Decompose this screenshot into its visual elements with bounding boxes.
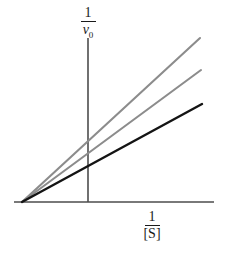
y-axis-label: 1 v0 xyxy=(72,6,104,40)
series-line-intermediate xyxy=(22,70,201,202)
x-axis-label-denominator: [S] xyxy=(140,226,163,241)
y-axis-label-subscript: 0 xyxy=(89,30,94,40)
plot-canvas xyxy=(0,0,226,254)
lineweaver-burk-figure: 1 v0 1 [S] xyxy=(0,0,226,254)
y-axis-label-numerator: 1 xyxy=(82,6,95,21)
x-axis-label-numerator: 1 xyxy=(146,210,159,225)
y-axis-label-denominator: v0 xyxy=(80,22,97,40)
x-axis-label: 1 [S] xyxy=(134,210,170,241)
